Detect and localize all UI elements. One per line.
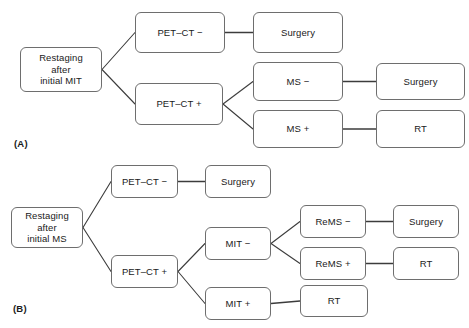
edge-b-root-to-b-petct-pos bbox=[83, 228, 111, 272]
edge-a-root-to-a-petct-pos bbox=[102, 70, 135, 105]
node-label: Surgery bbox=[221, 176, 255, 188]
node-b-surgery-1: Surgery bbox=[205, 165, 271, 198]
node-label: PET–CT + bbox=[156, 98, 201, 110]
node-b-rt-2: RT bbox=[300, 285, 368, 317]
node-b-root: Restaging after initial MS bbox=[11, 207, 83, 248]
node-a-root: Restaging after initial MIT bbox=[20, 47, 102, 92]
node-b-petct-neg: PET–CT − bbox=[111, 165, 178, 198]
node-a-petct-neg: PET–CT − bbox=[135, 12, 225, 53]
node-label: PET–CT − bbox=[157, 27, 202, 39]
node-label: ReMS − bbox=[315, 216, 350, 228]
edge-b-mit-neg-to-b-rems-pos bbox=[271, 244, 300, 264]
node-label: Surgery bbox=[409, 216, 443, 228]
node-label: RT bbox=[420, 258, 433, 270]
edge-b-root-to-b-petct-neg bbox=[83, 182, 111, 228]
panel-label-a: (A) bbox=[14, 138, 28, 149]
node-label: RT bbox=[414, 123, 427, 135]
node-a-petct-pos: PET–CT + bbox=[135, 83, 223, 125]
node-label: Restaging after initial MIT bbox=[39, 52, 83, 87]
node-a-ms-neg: MS − bbox=[253, 62, 343, 101]
node-label: Surgery bbox=[404, 76, 438, 88]
node-label: Surgery bbox=[281, 27, 315, 39]
node-b-surgery-2: Surgery bbox=[393, 205, 459, 238]
node-label: PET–CT − bbox=[122, 176, 167, 188]
node-b-petct-pos: PET–CT + bbox=[111, 255, 178, 288]
node-label: MIT + bbox=[226, 298, 251, 310]
node-a-surgery-2: Surgery bbox=[376, 63, 465, 100]
node-label: Restaging after initial MS bbox=[25, 210, 69, 245]
edge-b-mit-neg-to-b-rems-neg bbox=[271, 222, 300, 244]
node-label: ReMS + bbox=[315, 258, 350, 270]
node-a-ms-pos: MS + bbox=[253, 110, 343, 148]
node-b-rt-1: RT bbox=[393, 247, 459, 280]
node-label: PET–CT + bbox=[122, 266, 167, 278]
node-b-rems-pos: ReMS + bbox=[300, 247, 366, 280]
edge-a-petct-pos-to-a-ms-pos bbox=[223, 104, 253, 129]
node-label: MIT − bbox=[226, 238, 251, 250]
edge-b-mit-pos-to-b-rt-2 bbox=[271, 301, 300, 304]
treatment-algorithm-diagram: (A)Restaging after initial MITPET–CT −Su… bbox=[0, 0, 469, 328]
node-label: MS + bbox=[287, 123, 310, 135]
node-b-mit-pos: MIT + bbox=[205, 287, 271, 320]
node-a-rt-1: RT bbox=[376, 110, 465, 148]
edge-a-root-to-a-petct-neg bbox=[102, 33, 135, 70]
edge-b-petct-pos-to-b-mit-pos bbox=[178, 272, 205, 304]
node-label: MS − bbox=[287, 76, 310, 88]
node-label: RT bbox=[328, 295, 341, 307]
node-b-mit-neg: MIT − bbox=[205, 227, 271, 260]
panel-label-b: (B) bbox=[13, 303, 27, 314]
edge-b-petct-pos-to-b-mit-neg bbox=[178, 244, 205, 272]
edge-a-petct-pos-to-a-ms-neg bbox=[223, 82, 253, 105]
node-a-surgery-1: Surgery bbox=[253, 12, 343, 53]
node-b-rems-neg: ReMS − bbox=[300, 205, 366, 238]
